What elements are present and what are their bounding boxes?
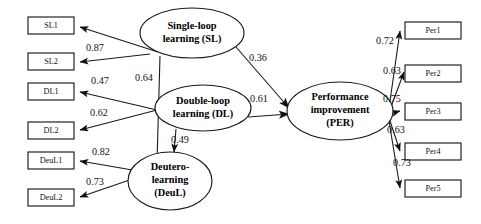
- observed-box-label: Per2: [425, 69, 440, 78]
- observed-box-label: SL2: [44, 57, 58, 66]
- latent-ellipse-DL[interactable]: Double-loop learning (DL): [155, 85, 251, 131]
- latent-label-line1: Performance: [311, 91, 369, 102]
- sem-path-diagram: SL1 SL2 DL1 DL2 DeuL1 DeuL2: [0, 0, 481, 224]
- coefficient-label-sl-to-per: 0.36: [249, 52, 267, 63]
- coefficient-label-per-to-per2: 0.63: [383, 65, 401, 76]
- observed-box-label: DL2: [43, 126, 58, 135]
- coefficient-label-dl-to-per: 0.61: [250, 93, 268, 104]
- coefficient-label-deul-to-deul1: 0.82: [92, 146, 110, 157]
- sem-canvas: SL1 SL2 DL1 DL2 DeuL1 DeuL2: [0, 0, 481, 224]
- latent-label-line3: (DeuL): [154, 187, 185, 199]
- latent-label-line2: learning (SL): [163, 33, 222, 45]
- observed-box-SL2[interactable]: SL2: [28, 53, 74, 70]
- observed-box-DeuL1[interactable]: DeuL1: [28, 152, 74, 169]
- observed-box-label: SL1: [44, 21, 58, 30]
- latent-variables-group: Single-loop learning (SL) Double-loop le…: [128, 8, 393, 210]
- latent-label-line1: Deutero-: [151, 161, 190, 172]
- coefficient-label-dl-to-dl1: 0.47: [91, 75, 109, 86]
- observed-box-Per5[interactable]: Per5: [405, 180, 461, 197]
- observed-box-label: DeuL1: [40, 156, 63, 165]
- latent-ellipse-SL[interactable]: Single-loop learning (SL): [140, 8, 244, 58]
- observed-box-label: Per1: [425, 26, 440, 35]
- latent-label-line1: Single-loop: [167, 20, 216, 31]
- latent-label-line3: (PER): [326, 117, 353, 129]
- observed-box-DL1[interactable]: DL1: [28, 83, 74, 100]
- latent-ellipse-PER[interactable]: Performance improvement (PER): [287, 82, 393, 140]
- observed-box-Per3[interactable]: Per3: [405, 103, 461, 120]
- observed-box-SL1[interactable]: SL1: [28, 17, 74, 34]
- coefficient-label-per-to-per4: 0.63: [387, 124, 405, 135]
- coefficient-label-dl-to-dl2: 0.62: [90, 107, 108, 118]
- observed-box-label: DL1: [43, 87, 58, 96]
- path-dl-to-per: [248, 114, 289, 117]
- coefficient-label-per-to-per3: 0.75: [383, 93, 401, 104]
- observed-box-label: Per5: [425, 184, 440, 193]
- coefficient-label-deul-to-deul2: 0.73: [86, 176, 104, 187]
- coefficient-label-sl-to-deul: 0.64: [135, 72, 153, 83]
- coefficient-label-per-to-per1: 0.72: [376, 35, 394, 46]
- observed-box-label: Per3: [425, 107, 440, 116]
- observed-box-Per1[interactable]: Per1: [405, 22, 461, 39]
- latent-label-line2: learning (DL): [173, 108, 233, 120]
- observed-box-Per4[interactable]: Per4: [405, 143, 461, 160]
- coefficient-label-sl-to-sl2: 0.87: [86, 42, 104, 53]
- observed-box-DeuL2[interactable]: DeuL2: [28, 189, 74, 206]
- coefficient-label-dl-to-deul: 0.49: [171, 134, 189, 145]
- latent-label-line2: improvement: [311, 104, 370, 115]
- coefficient-label-per-to-per5: 0.73: [393, 157, 411, 168]
- observed-box-label: Per4: [425, 147, 440, 156]
- path-sl-to-sl2: [80, 54, 150, 62]
- latent-ellipse-DeuL[interactable]: Deutero- learning (DeuL): [128, 152, 212, 210]
- latent-label-line2: learning: [152, 174, 189, 185]
- latent-label-line1: Double-loop: [176, 95, 230, 106]
- observed-box-Per2[interactable]: Per2: [405, 65, 461, 82]
- observed-box-DL2[interactable]: DL2: [28, 122, 74, 139]
- observed-box-label: DeuL2: [40, 193, 63, 202]
